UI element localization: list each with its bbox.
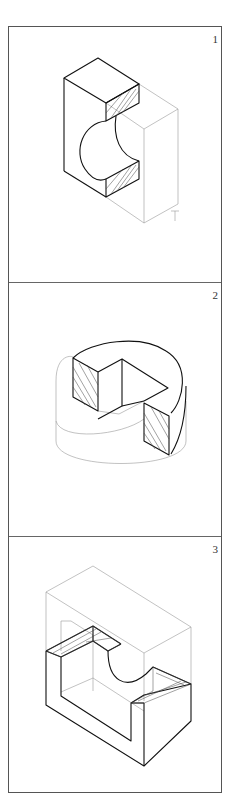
figure-panel-3: 3: [9, 537, 221, 792]
drawing-sheet: 1 2: [8, 26, 222, 793]
figure-panel-2: 2: [9, 283, 221, 537]
figure-2-drawing: [9, 283, 223, 537]
figure-panel-1: 1: [9, 27, 221, 283]
figure-3-drawing: [9, 537, 223, 792]
figure-1-drawing: [9, 27, 223, 283]
